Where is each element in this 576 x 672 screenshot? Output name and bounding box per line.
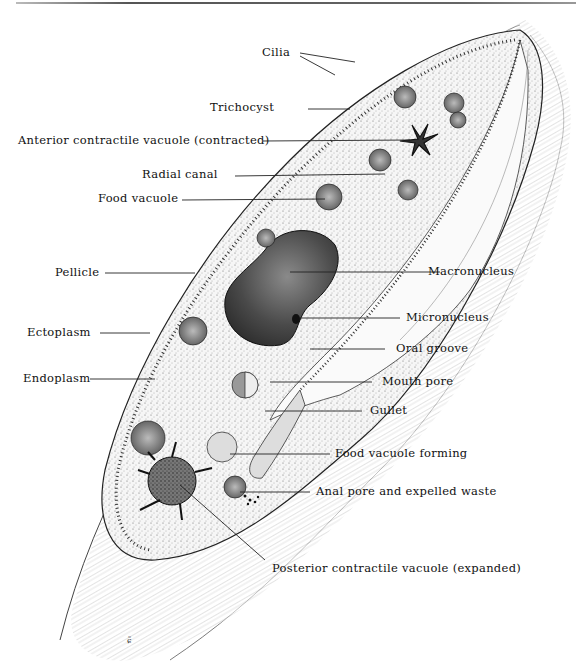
label-macronucleus: Macronucleus: [428, 264, 514, 278]
label-anal-pore: Anal pore and expelled waste: [316, 484, 497, 498]
label-gullet: Gullet: [370, 403, 407, 417]
label-cilia: Cilia: [262, 45, 290, 59]
label-food-vacuole: Food vacuole: [98, 191, 178, 205]
label-radial-canal: Radial canal: [142, 167, 218, 181]
label-mouth-pore: Mouth pore: [382, 374, 453, 388]
label-anterior-contractile-vacuole: Anterior contractile vacuole (contracted…: [18, 133, 270, 147]
label-trichocyst: Trichocyst: [210, 100, 274, 114]
label-posterior-contractile-vacuole: Posterior contractile vacuole (expanded): [272, 561, 521, 575]
label-oral-groove: Oral groove: [396, 341, 468, 355]
label-pellicle: Pellicle: [55, 265, 99, 279]
artist-signature: ɕ̃: [127, 636, 131, 645]
micronucleus-shape: [292, 314, 300, 324]
label-food-vacuole-forming: Food vacuole forming: [335, 446, 468, 460]
label-ectoplasm: Ectoplasm: [27, 325, 91, 339]
label-endoplasm: Endoplasm: [23, 371, 91, 385]
label-micronucleus: Micronucleus: [406, 310, 489, 324]
